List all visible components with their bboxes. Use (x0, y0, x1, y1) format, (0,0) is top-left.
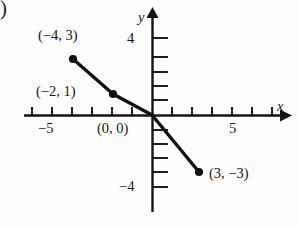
x-tick-label-5: 5 (229, 121, 236, 136)
x-tick-label-neg5: −5 (38, 121, 53, 136)
data-point-marker (69, 55, 77, 63)
y-axis-ticks (152, 38, 168, 187)
y-axis-label: y (138, 10, 144, 25)
y-tick-label-4: 4 (127, 31, 134, 46)
data-point-marker (195, 168, 203, 176)
point-label-3-neg3: (3, −3) (209, 166, 249, 181)
point-label-neg4-3: (−4, 3) (38, 28, 78, 43)
data-point-marker (109, 90, 117, 98)
graph-figure: ) (−4, 3) (−2, 1) (0, 0) (3, −3) y x 4 −… (0, 0, 298, 226)
point-label-origin: (0, 0) (97, 121, 128, 136)
y-axis-arrowhead (147, 7, 159, 18)
point-label-neg2-1: (−2, 1) (36, 84, 76, 99)
problem-number-paren: ) (0, 0, 7, 19)
y-tick-label-neg4: −4 (119, 179, 134, 194)
x-axis-label: x (277, 99, 283, 114)
